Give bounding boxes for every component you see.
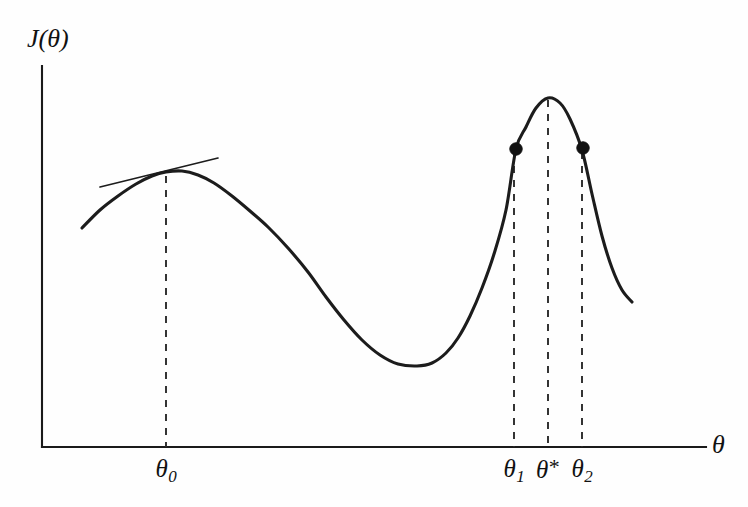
objective-curve xyxy=(82,98,632,366)
tick-subscript-theta1: 1 xyxy=(516,467,525,486)
marker-dots-group xyxy=(510,142,589,155)
tick-base-theta0: θ xyxy=(156,455,168,482)
tick-label-theta2: θ2 xyxy=(572,456,593,485)
tick-subscript-theta0: 0 xyxy=(168,467,177,486)
tick-subscript-theta2: 2 xyxy=(584,467,593,486)
plot-canvas xyxy=(0,0,748,507)
marker-dot-0 xyxy=(510,143,522,155)
tick-base-theta1: θ xyxy=(504,455,516,482)
figure-root: J(θ) θ θ0 θ1 θ* θ2 xyxy=(0,0,748,507)
x-axis-label: θ xyxy=(712,432,725,458)
y-axis-label: J(θ) xyxy=(27,26,69,52)
tick-label-theta0: θ0 xyxy=(156,456,177,485)
tick-label-theta1: θ1 xyxy=(504,456,525,485)
tick-label-theta-star: θ* xyxy=(536,456,560,482)
tick-base-thetastar: θ xyxy=(536,456,548,483)
tick-superscript-thetastar: * xyxy=(549,454,560,479)
marker-dot-1 xyxy=(577,142,589,154)
tick-base-theta2: θ xyxy=(572,455,584,482)
tangent-line-at-theta0 xyxy=(100,158,218,187)
